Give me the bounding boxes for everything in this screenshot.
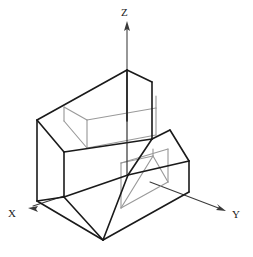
axis-x-label: X xyxy=(8,207,16,219)
axis-x-arrowhead xyxy=(28,206,38,212)
axis-z-label: Z xyxy=(121,6,128,18)
isometric-drawing-canvas: Z Y X xyxy=(0,0,253,257)
isometric-solid-figure: Z Y X xyxy=(0,0,253,257)
axis-y-label: Y xyxy=(232,208,240,220)
